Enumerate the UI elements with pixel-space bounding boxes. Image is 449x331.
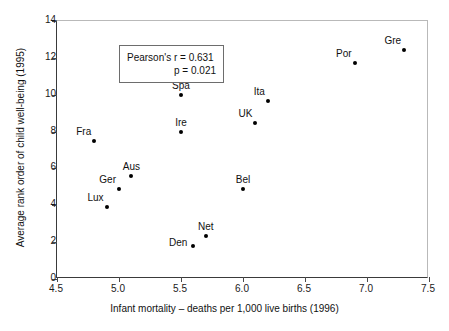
x-axis-tick (243, 277, 244, 282)
data-point (253, 121, 257, 125)
data-point (105, 205, 109, 209)
data-point-label: Aus (123, 162, 140, 172)
x-axis-tick (57, 277, 58, 282)
x-axis-tick-label: 7.5 (421, 284, 435, 294)
data-point-label: Ita (254, 87, 265, 97)
data-point-label: Net (198, 222, 214, 232)
x-axis-tick-label: 7.0 (359, 284, 373, 294)
data-point-label: Lux (87, 193, 103, 203)
p-value-text: p = 0.021 (127, 64, 216, 77)
scatter-plot-figure: FraLuxGerAusSpaIreDenNetBelUKItaPorGre P… (0, 0, 449, 331)
x-axis-tick (181, 277, 182, 282)
data-point (179, 130, 183, 134)
y-axis-tick-label: 0 (0, 273, 56, 283)
data-point-label: Gre (385, 36, 402, 46)
x-axis-tick-label: 4.5 (49, 284, 63, 294)
data-point (266, 99, 270, 103)
y-axis-tick-label: 2 (0, 236, 56, 246)
x-axis-tick (305, 277, 306, 282)
y-axis-tick-label: 12 (0, 52, 56, 62)
x-axis-title: Infant mortality – deaths per 1,000 live… (0, 303, 449, 314)
data-point (402, 48, 406, 52)
data-point-label: Bel (236, 175, 250, 185)
data-point (191, 244, 195, 248)
y-axis-tick-label: 8 (0, 126, 56, 136)
data-point (92, 139, 96, 143)
data-point (204, 234, 208, 238)
x-axis-tick-label: 6.0 (235, 284, 249, 294)
statistics-annotation-box: Pearson's r = 0.631 p = 0.021 (119, 45, 224, 83)
x-axis-tick (429, 277, 430, 282)
y-axis-tick-label: 6 (0, 162, 56, 172)
pearson-r-text: Pearson's r = 0.631 (127, 51, 216, 64)
x-axis-tick (119, 277, 120, 282)
plot-area: FraLuxGerAusSpaIreDenNetBelUKItaPorGre P… (56, 20, 428, 278)
data-point (353, 61, 357, 65)
data-point-label: Den (169, 238, 187, 248)
data-point (129, 174, 133, 178)
data-point-label: Por (336, 49, 352, 59)
y-axis-tick-label: 14 (0, 15, 56, 25)
data-point-label: Fra (76, 127, 91, 137)
data-point-label: Ire (175, 118, 187, 128)
x-axis-tick-label: 5.5 (173, 284, 187, 294)
x-axis-tick-label: 6.5 (297, 284, 311, 294)
y-axis-tick-label: 4 (0, 199, 56, 209)
data-point-label: UK (238, 109, 252, 119)
data-point (117, 187, 121, 191)
y-axis-title: Average rank order of child well-being (… (15, 19, 26, 277)
x-axis-tick-label: 5.0 (111, 284, 125, 294)
x-axis-tick (367, 277, 368, 282)
data-point-label: Ger (99, 175, 116, 185)
data-point (241, 187, 245, 191)
data-point (179, 93, 183, 97)
y-axis-tick-label: 10 (0, 89, 56, 99)
